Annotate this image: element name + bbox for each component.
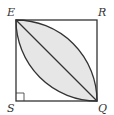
- label-s: S: [7, 102, 15, 115]
- right-angle-marker: [16, 93, 24, 101]
- label-r: R: [97, 6, 106, 19]
- label-q: Q: [98, 102, 107, 115]
- geometry-diagram: E R S Q: [0, 0, 114, 115]
- label-e: E: [6, 6, 15, 19]
